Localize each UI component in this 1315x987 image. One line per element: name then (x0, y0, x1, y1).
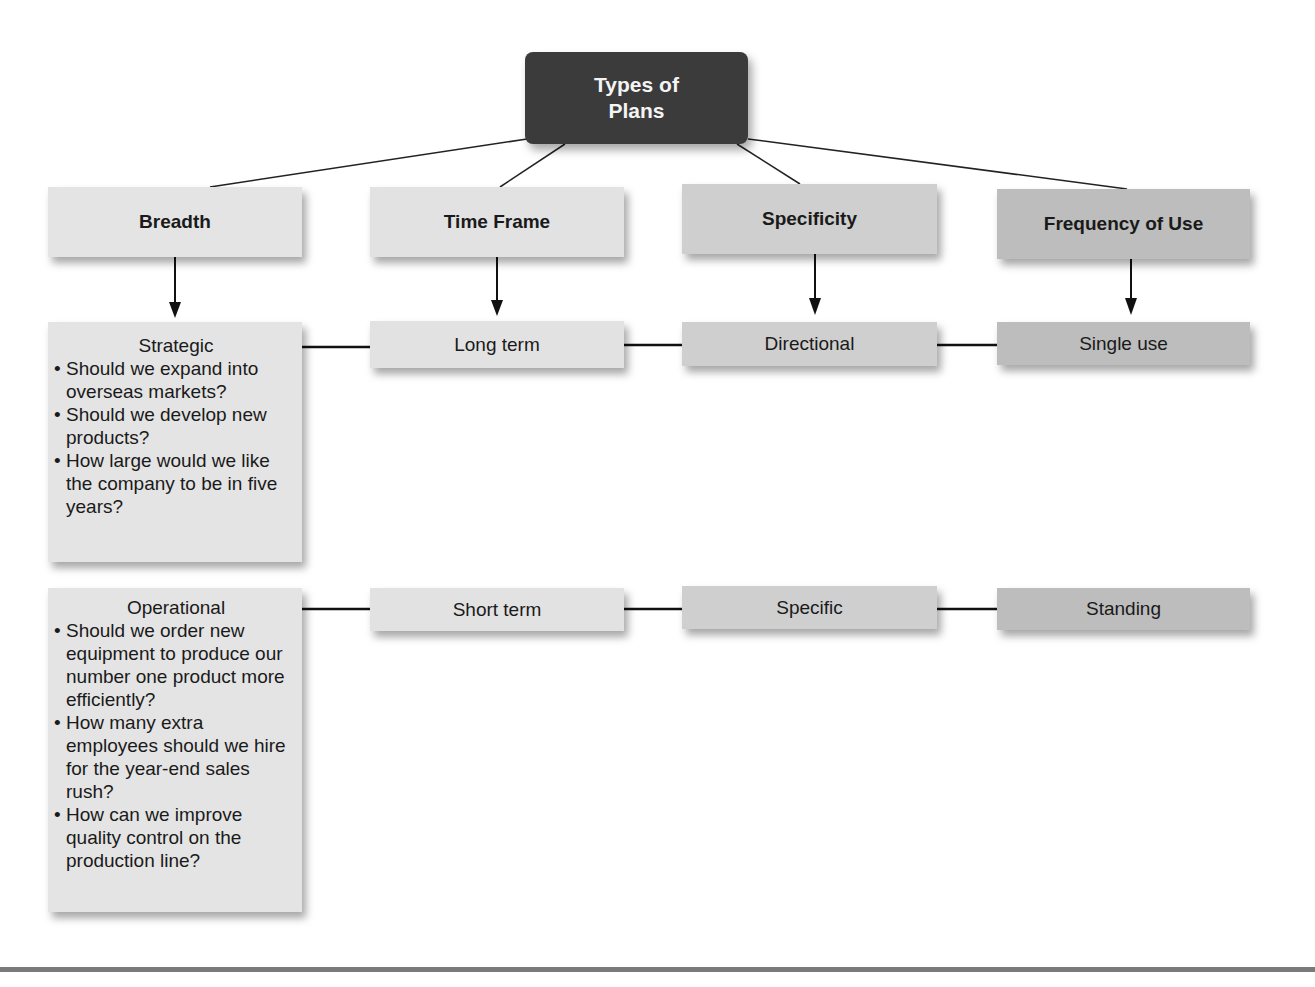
node-label: Single use (1079, 333, 1168, 355)
category-label: Frequency of Use (1044, 213, 1203, 235)
node-label: Standing (1086, 598, 1161, 620)
list-item: Should we expand into overseas markets? (54, 357, 298, 403)
root-label-line2: Plans (608, 98, 664, 124)
list-item: How many extra employees should we hire … (54, 711, 298, 803)
root-label-line1: Types of (594, 72, 679, 98)
node-label: Short term (453, 599, 542, 621)
category-label: Specificity (762, 208, 857, 230)
node-specific: Specific (682, 586, 937, 629)
category-specificity: Specificity (682, 184, 937, 254)
node-title: Operational (54, 596, 298, 619)
node-label: Directional (765, 333, 855, 355)
list-item: How can we improve quality control on th… (54, 803, 298, 872)
node-standing: Standing (997, 588, 1250, 630)
node-label: Specific (776, 597, 843, 619)
node-long-term: Long term (370, 321, 624, 368)
list-item: Should we develop new products? (54, 403, 298, 449)
list-item: How large would we like the company to b… (54, 449, 298, 518)
node-strategic: Strategic Should we expand into overseas… (48, 322, 302, 562)
category-frequency-of-use: Frequency of Use (997, 189, 1250, 259)
node-label: Long term (454, 334, 540, 356)
node-short-term: Short term (370, 588, 624, 631)
category-label: Time Frame (444, 211, 550, 233)
category-breadth: Breadth (48, 187, 302, 257)
node-single-use: Single use (997, 322, 1250, 365)
node-directional: Directional (682, 322, 937, 366)
bottom-divider (0, 967, 1315, 972)
category-time-frame: Time Frame (370, 187, 624, 257)
list-item: Should we order new equipment to produce… (54, 619, 298, 711)
category-label: Breadth (139, 211, 211, 233)
node-title: Strategic (54, 334, 298, 357)
root-node-types-of-plans: Types of Plans (525, 52, 748, 144)
node-operational: Operational Should we order new equipmen… (48, 588, 302, 912)
question-list: Should we expand into overseas markets? … (54, 357, 298, 518)
question-list: Should we order new equipment to produce… (54, 619, 298, 872)
